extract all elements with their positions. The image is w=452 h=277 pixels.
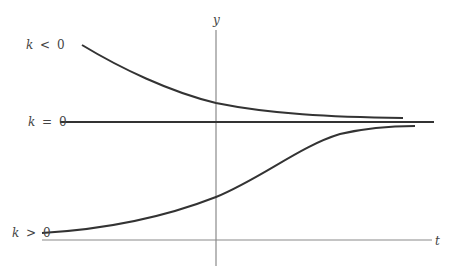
label-k-zero: k = 0: [28, 115, 67, 129]
label-k-positive: k > 0: [12, 226, 51, 240]
differential-equation-solution-curves: y t k < 0 k = 0 k > 0: [0, 0, 452, 277]
curve-k-negative: [82, 45, 403, 118]
y-axis-label: y: [212, 13, 220, 27]
label-k-negative: k < 0: [26, 38, 65, 52]
curve-k-positive: [42, 126, 415, 233]
t-axis-label: t: [435, 234, 440, 248]
